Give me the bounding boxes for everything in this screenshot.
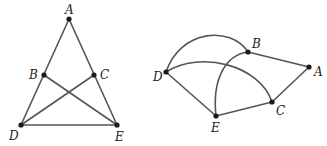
vertex-d	[163, 69, 168, 74]
graph-diagram: A B C D E A B C D E	[0, 0, 327, 146]
edge-e-b-arc	[215, 52, 248, 116]
label-a: A	[313, 65, 323, 79]
label-b: B	[251, 37, 261, 51]
label-c: C	[276, 104, 285, 118]
label-a: A	[64, 3, 74, 17]
label-e: E	[210, 121, 220, 135]
vertex-e	[114, 122, 119, 127]
vertex-c	[269, 99, 274, 104]
vertex-b	[245, 49, 250, 54]
right-graph: A B C D E	[152, 35, 323, 135]
vertex-a	[66, 16, 71, 21]
label-b: B	[28, 68, 38, 82]
label-c: C	[100, 68, 109, 82]
left-graph: A B C D E	[8, 3, 124, 144]
edge-b-a	[248, 52, 309, 67]
label-e: E	[114, 130, 124, 144]
edge-a-c	[272, 67, 309, 102]
edge-d-c-arc	[166, 62, 272, 102]
vertex-a	[306, 64, 311, 69]
vertex-e	[213, 113, 218, 118]
edge-e-d	[166, 72, 216, 116]
vertex-d	[18, 122, 23, 127]
label-d: D	[152, 70, 163, 84]
edge-c-e	[216, 102, 272, 116]
label-d: D	[8, 129, 19, 143]
vertex-c	[91, 72, 96, 77]
vertex-b	[41, 72, 46, 77]
